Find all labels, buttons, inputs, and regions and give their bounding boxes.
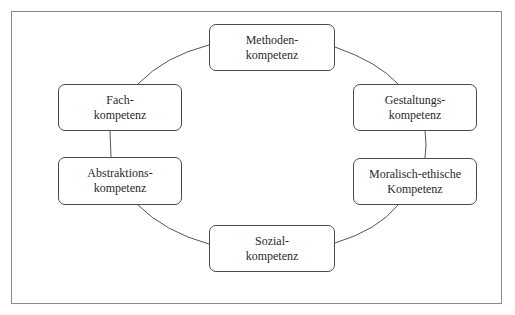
node-abstraktionskompetenz: Abstraktions- kompetenz (58, 157, 182, 205)
edge-methoden-gestaltung (335, 47, 398, 84)
node-label: Gestaltungs- (385, 93, 446, 108)
node-fachkompetenz: Fach- kompetenz (58, 84, 182, 131)
node-label: Moralisch-ethische (369, 167, 461, 182)
node-label: kompetenz (246, 249, 299, 264)
node-gestaltungskompetenz: Gestaltungs- kompetenz (353, 84, 477, 131)
node-label: kompetenz (94, 108, 147, 123)
node-sozialkompetenz: Sozial- kompetenz (209, 225, 335, 272)
node-methodenkompetenz: Methoden- kompetenz (209, 24, 335, 71)
node-label: Methoden- (246, 33, 299, 48)
edge-fach-abstraktion (110, 131, 111, 157)
edge-moralisch-sozial (335, 205, 398, 243)
node-label: kompetenz (389, 108, 442, 123)
node-label: kompetenz (246, 48, 299, 63)
edge-fach-methoden (138, 45, 209, 84)
node-moralisch-ethische-kompetenz: Moralisch-ethische Kompetenz (353, 158, 477, 205)
node-label: Kompetenz (387, 182, 442, 197)
node-label: Sozial- (255, 234, 289, 249)
node-label: Fach- (106, 93, 133, 108)
edge-abstraktion-sozial (138, 205, 209, 244)
node-label: Abstraktions- (87, 166, 152, 181)
edge-gestaltung-moralisch (425, 131, 426, 158)
node-label: kompetenz (94, 181, 147, 196)
